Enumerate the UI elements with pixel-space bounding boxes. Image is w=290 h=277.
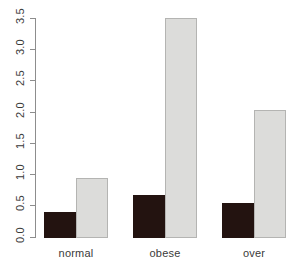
x-axis-label-normal: normal bbox=[44, 247, 108, 259]
bar-chart: 0.0 0.5 1.0 1.5 2.0 2.5 3.0 3.5 normal o… bbox=[0, 0, 290, 277]
x-axis-label-over: over bbox=[222, 247, 286, 259]
x-axis-label-obese: obese bbox=[133, 247, 197, 259]
bar-normal-light bbox=[76, 178, 108, 238]
bar-obese-dark bbox=[133, 195, 165, 238]
bar-normal-dark bbox=[44, 212, 76, 238]
bar-over-light bbox=[254, 110, 286, 238]
bar-obese-light bbox=[165, 18, 197, 238]
plot-area bbox=[0, 0, 290, 277]
bar-over-dark bbox=[222, 203, 254, 238]
